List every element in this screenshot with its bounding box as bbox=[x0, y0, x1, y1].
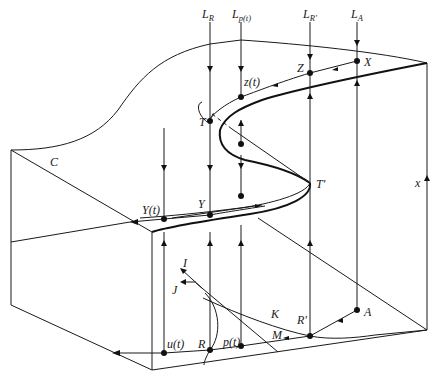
point-middle-1 bbox=[238, 141, 244, 147]
label-L-A: LA bbox=[350, 7, 364, 23]
point-Y bbox=[207, 212, 213, 218]
label-L-Rp: LR' bbox=[302, 7, 317, 23]
label-J: J bbox=[172, 283, 178, 297]
fold-surface bbox=[140, 63, 427, 232]
label-Y: Y bbox=[198, 197, 206, 211]
label-u-t: u(t) bbox=[167, 337, 184, 351]
fold-line bbox=[232, 129, 310, 183]
point-Y-t bbox=[161, 216, 167, 222]
label-X: X bbox=[363, 55, 372, 69]
label-Y-t: Y(t) bbox=[142, 203, 160, 217]
point-middle-2 bbox=[238, 193, 244, 199]
label-C: C bbox=[50, 155, 59, 169]
label-Z: Z bbox=[297, 61, 304, 75]
label-L-pt: Lp(t) bbox=[231, 7, 251, 23]
label-R: R bbox=[197, 337, 206, 351]
point-A bbox=[354, 307, 360, 313]
vertical-lines bbox=[164, 22, 357, 353]
label-I: I bbox=[182, 256, 188, 270]
point-R-prime bbox=[307, 333, 313, 339]
label-R-prime: R' bbox=[296, 313, 307, 327]
label-x-axis: x bbox=[414, 176, 421, 190]
label-K: K bbox=[270, 307, 280, 321]
point-X bbox=[354, 58, 360, 64]
point-z-t bbox=[238, 94, 244, 100]
label-A: A bbox=[363, 305, 372, 319]
point-T bbox=[207, 118, 213, 124]
label-z-t: z(t) bbox=[243, 75, 260, 89]
label-T: T bbox=[199, 115, 207, 129]
label-L-R: LR bbox=[201, 7, 215, 23]
label-p-t: p(t) bbox=[222, 335, 240, 349]
label-T-prime: T' bbox=[316, 177, 326, 191]
labels: LR Lp(t) LR' LA z(t) Z X T T' C x Y(t) Y… bbox=[50, 7, 421, 351]
point-Z bbox=[307, 70, 313, 76]
point-R bbox=[207, 347, 213, 353]
cusp-catastrophe-diagram: LR Lp(t) LR' LA z(t) Z X T T' C x Y(t) Y… bbox=[0, 0, 439, 379]
box-frame bbox=[11, 63, 427, 370]
label-M: M bbox=[271, 328, 283, 342]
